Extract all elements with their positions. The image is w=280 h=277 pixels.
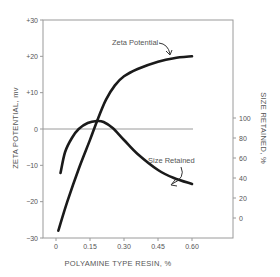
y2-tick-label: 80 bbox=[239, 135, 247, 142]
size-retained-line bbox=[61, 121, 193, 184]
zeta-potential-label: Zeta Potential bbox=[112, 38, 159, 47]
x-tick-label: 0.45 bbox=[151, 243, 165, 250]
y-tick-label: −30 bbox=[26, 235, 38, 242]
y-tick-label: +30 bbox=[26, 17, 38, 24]
y2-axis-title: SIZE RETAINED, % bbox=[259, 92, 268, 164]
chart: +30+20+100−10−20−30 100806040200 00.150.… bbox=[0, 0, 280, 277]
y2-tick-label: 60 bbox=[239, 155, 247, 162]
y-axis-title: ZETA POTENTIAL, mv bbox=[11, 87, 20, 169]
y-tick-label: +20 bbox=[26, 53, 38, 60]
x-tick-label: 0.60 bbox=[185, 243, 199, 250]
y2-tick-label: 0 bbox=[239, 215, 243, 222]
zeta-potential-arrow-icon bbox=[159, 43, 170, 54]
y2-tick-label: 40 bbox=[239, 175, 247, 182]
zeta-potential-line bbox=[58, 56, 192, 230]
y-tick-label: −10 bbox=[26, 162, 38, 169]
y-tick-label: −20 bbox=[26, 198, 38, 205]
x-axis-title: POLYAMINE TYPE RESIN, % bbox=[65, 259, 172, 268]
y-tick-label: 0 bbox=[34, 126, 38, 133]
left-axis-ticks: +30+20+100−10−20−30 bbox=[26, 17, 43, 242]
x-axis-ticks: 00.150.300.450.60 bbox=[54, 238, 199, 250]
right-axis-ticks: 100806040200 bbox=[233, 115, 251, 222]
size-retained-label: Size Retained bbox=[148, 156, 195, 165]
x-tick-label: 0.15 bbox=[83, 243, 97, 250]
x-tick-label: 0 bbox=[54, 243, 58, 250]
x-tick-label: 0.30 bbox=[117, 243, 131, 250]
y2-tick-label: 20 bbox=[239, 195, 247, 202]
y2-tick-label: 100 bbox=[239, 115, 251, 122]
y-tick-label: +10 bbox=[26, 89, 38, 96]
